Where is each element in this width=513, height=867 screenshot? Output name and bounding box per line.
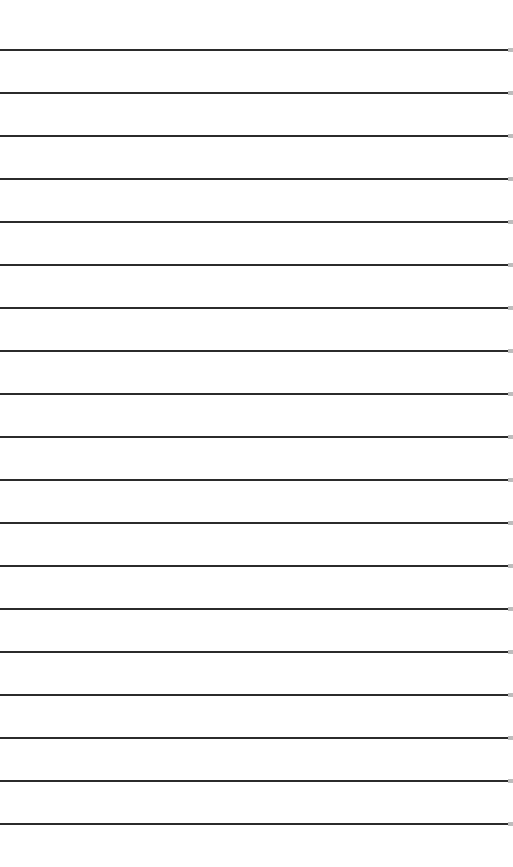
ruled-line — [0, 264, 508, 266]
ruled-line — [0, 608, 508, 610]
ruled-line — [0, 565, 508, 567]
ruled-line — [0, 178, 508, 180]
ruled-line — [0, 49, 508, 51]
ruled-line — [0, 522, 508, 524]
ruled-line — [0, 694, 508, 696]
ruled-line — [0, 393, 508, 395]
ruled-line — [0, 436, 508, 438]
ruled-line — [0, 307, 508, 309]
ruled-line — [0, 350, 508, 352]
ruled-line — [0, 823, 508, 825]
ruled-line — [0, 221, 508, 223]
ruled-line — [0, 651, 508, 653]
ruled-line — [0, 737, 508, 739]
ruled-line — [0, 135, 508, 137]
ruled-line — [0, 479, 508, 481]
ruled-line — [0, 92, 508, 94]
ruled-line — [0, 780, 508, 782]
